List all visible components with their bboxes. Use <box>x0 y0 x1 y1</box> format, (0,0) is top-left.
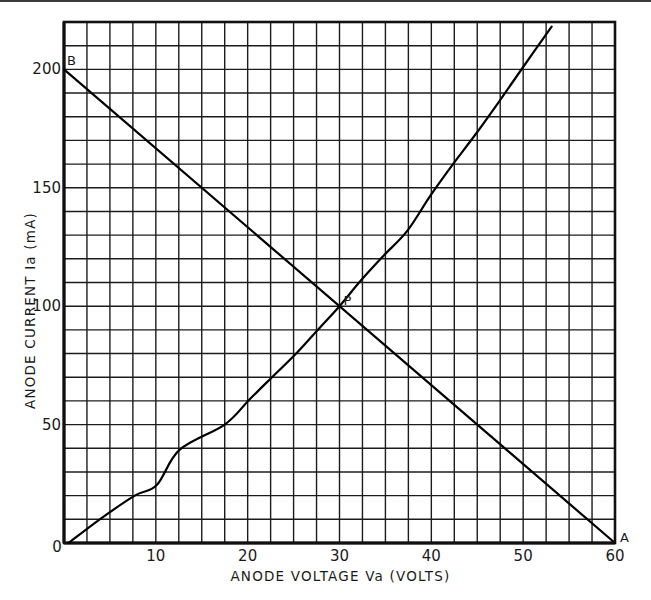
x-tick-label: 0 <box>52 538 62 556</box>
characteristic-curve <box>69 27 552 543</box>
grid <box>64 22 615 543</box>
x-tick-label: 30 <box>330 547 349 565</box>
x-tick-label: 60 <box>605 547 624 565</box>
x-tick-label: 40 <box>422 547 441 565</box>
x-tick-label: 50 <box>514 547 533 565</box>
point-label-b: B <box>67 53 76 68</box>
y-tick-label: 150 <box>32 179 61 197</box>
x-tick-label: 10 <box>146 547 165 565</box>
point-label-a: A <box>620 530 629 545</box>
chart: 0102030405060 50100150200 BAP ANODE VOLT… <box>0 0 651 600</box>
x-axis-title: ANODE VOLTAGE Va (VOLTS) <box>230 568 450 584</box>
y-tick-label: 50 <box>42 416 61 434</box>
y-tick-label: 200 <box>32 60 61 78</box>
y-axis-title: ANODE CURRENT Ia (mA) <box>22 212 38 409</box>
x-tick-label: 20 <box>238 547 257 565</box>
point-label-p: P <box>344 293 352 308</box>
